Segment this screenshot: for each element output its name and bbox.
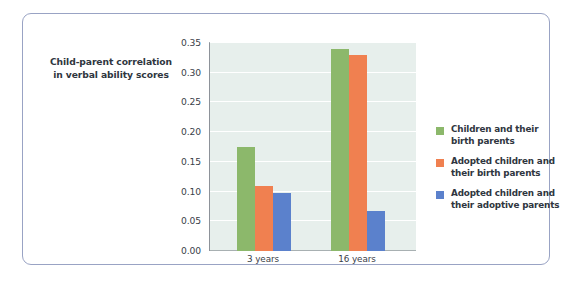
y-tick-label: 0.10: [181, 185, 201, 196]
bar: [349, 55, 367, 251]
legend-label: Adopted children andtheir adoptive paren…: [451, 188, 559, 211]
bar: [331, 49, 349, 251]
x-tick-label: 16 years: [338, 254, 375, 264]
x-axis-tick-labels: 3 years16 years: [209, 254, 415, 270]
y-tick-label: 0.15: [181, 155, 201, 166]
legend-label-line-1: Children and their: [451, 124, 538, 134]
y-tick-label: 0.25: [181, 96, 201, 107]
legend-label: Adopted children andtheir birth parents: [451, 156, 555, 179]
legend-item: Children and theirbirth parents: [436, 124, 573, 147]
chart-legend: Children and theirbirth parentsAdopted c…: [436, 124, 573, 220]
legend-label-line-2: their adoptive parents: [451, 200, 559, 212]
y-axis-tick-labels: 0.000.050.100.150.200.250.300.35: [163, 42, 205, 250]
legend-swatch-icon: [436, 159, 444, 167]
legend-label-line-1: Adopted children and: [451, 188, 555, 198]
bars-layer: [210, 43, 416, 251]
plot-area: [209, 42, 416, 251]
bar: [237, 147, 255, 251]
y-tick-label: 0.05: [181, 215, 201, 226]
y-tick-label: 0.30: [181, 66, 201, 77]
legend-label-line-2: birth parents: [451, 136, 538, 148]
legend-label-line-1: Adopted children and: [451, 156, 555, 166]
x-tick-label: 3 years: [247, 254, 279, 264]
legend-swatch-icon: [436, 191, 444, 199]
legend-item: Adopted children andtheir adoptive paren…: [436, 188, 573, 211]
y-tick-label: 0.35: [181, 37, 201, 48]
bar: [273, 193, 291, 251]
bar: [367, 211, 385, 251]
legend-label-line-2: their birth parents: [451, 168, 555, 180]
legend-swatch-icon: [436, 127, 444, 135]
y-tick-label: 0.20: [181, 126, 201, 137]
legend-item: Adopted children andtheir birth parents: [436, 156, 573, 179]
figure-frame: Child-parent correlation in verbal abili…: [22, 13, 550, 265]
bar: [255, 186, 273, 251]
legend-label: Children and theirbirth parents: [451, 124, 538, 147]
y-axis-title-line-1: Child-parent correlation: [50, 56, 172, 67]
y-tick-label: 0.00: [181, 245, 201, 256]
